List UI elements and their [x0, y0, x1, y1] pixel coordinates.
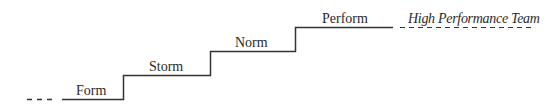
stage-label-perform: Perform [322, 12, 368, 26]
stage-label-form: Form [76, 84, 106, 98]
stage-label-storm: Storm [149, 60, 183, 74]
goal-label-high-performance-team: High Performance Team [408, 12, 540, 26]
team-stages-diagram: Form Storm Norm Perform High Performance… [0, 0, 558, 108]
stage-label-norm: Norm [235, 36, 268, 50]
staircase-path [62, 28, 393, 100]
